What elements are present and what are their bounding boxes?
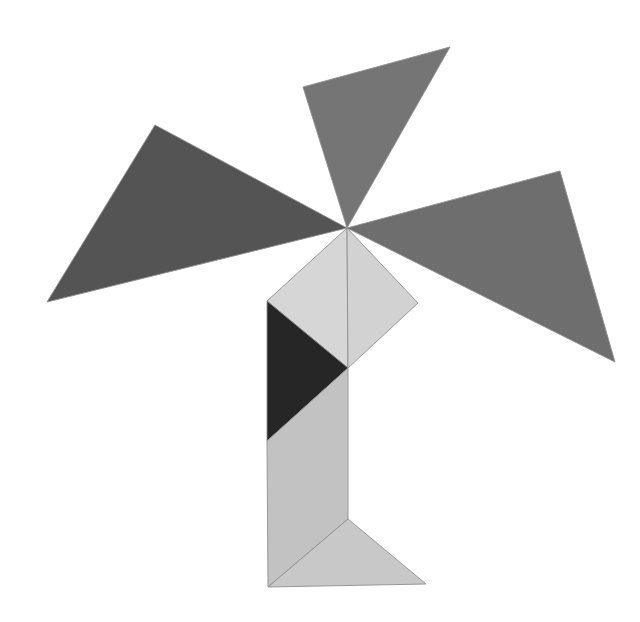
figure-canvas — [0, 0, 640, 622]
tangram-figure — [0, 0, 640, 622]
